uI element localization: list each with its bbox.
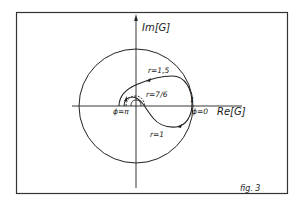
x-axis-label: Re[G]	[217, 106, 246, 117]
nyquist-diagram: Im[G] Re[G] 1 r=1,5 r=7/6 r=1 ϕ=π ϕ=0 fi…	[0, 0, 302, 206]
r-outer-label: r=1,5	[148, 66, 170, 75]
y-axis-arrow-icon	[134, 14, 138, 21]
direction-arrow-icon	[124, 96, 127, 101]
y-axis-label: Im[G]	[142, 22, 170, 33]
phi-pi-label: ϕ=π	[113, 107, 129, 116]
r-1.5-curve	[119, 76, 192, 127]
direction-arrow-icon	[146, 78, 151, 82]
phi-zero-label: ϕ=0	[192, 107, 208, 116]
r-unit-label: r=1	[150, 130, 164, 139]
unit-marker-label: 1	[190, 96, 194, 104]
figure-frame	[17, 13, 288, 194]
r-inner-label: r=7/6	[146, 90, 168, 99]
direction-arrow-icon	[177, 124, 182, 128]
figure-caption: fig. 3	[240, 184, 260, 193]
